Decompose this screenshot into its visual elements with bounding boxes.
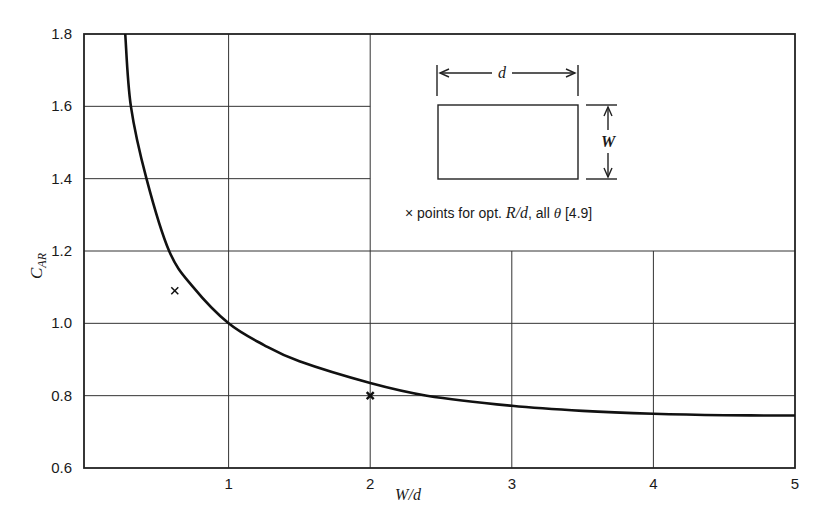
y-axis-label: CAR (27, 252, 49, 279)
grid-lines (84, 34, 795, 468)
inset-diagram (437, 65, 617, 179)
inset-rectangle (438, 105, 578, 179)
inset-width-label: d (498, 64, 507, 81)
y-tick-label: 1.2 (51, 242, 72, 259)
x-tick-labels: 12345 (224, 475, 799, 492)
x-tick-label: 3 (508, 475, 516, 492)
legend-note: × points for opt. R/d, all θ [4.9] (405, 204, 592, 221)
chart: 0.60.81.01.21.41.61.8 12345 CAR W/d d W … (0, 0, 821, 530)
inset-height-label: W (601, 133, 617, 150)
y-tick-label: 1.8 (51, 25, 72, 42)
y-tick-label: 0.6 (51, 459, 72, 476)
x-axis-label: W/d (395, 486, 422, 503)
x-tick-label: 1 (224, 475, 232, 492)
y-tick-labels: 0.60.81.01.21.41.61.8 (51, 25, 72, 476)
data-curve (125, 34, 795, 416)
y-tick-label: 0.8 (51, 387, 72, 404)
y-tick-label: 1.0 (51, 314, 72, 331)
x-tick-label: 2 (366, 475, 374, 492)
legend-marker: × (405, 205, 413, 221)
y-tick-label: 1.4 (51, 170, 72, 187)
x-tick-label: 5 (791, 475, 799, 492)
x-marker (171, 287, 178, 294)
x-tick-label: 4 (649, 475, 657, 492)
y-tick-label: 1.6 (51, 97, 72, 114)
data-markers (171, 287, 373, 399)
